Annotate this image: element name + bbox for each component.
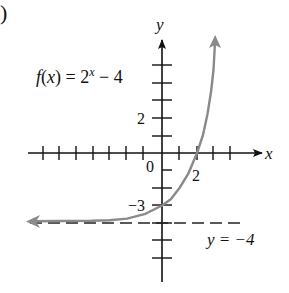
y-axis-label: y xyxy=(154,15,164,34)
y-axis: y xyxy=(152,15,172,282)
x-intercept-label: 2 xyxy=(192,167,200,184)
x-axis-label: x xyxy=(264,144,273,163)
y-intercept-label: −3 xyxy=(128,197,145,214)
part-label: ) xyxy=(0,0,7,25)
origin-label: 0 xyxy=(146,158,154,175)
asymptote-label: y = −4 xyxy=(205,230,255,249)
function-graph: ) x xyxy=(0,0,289,293)
function-label: f(x) = 2x − 4 xyxy=(36,65,123,88)
y-tick-label-2: 2 xyxy=(137,110,145,127)
